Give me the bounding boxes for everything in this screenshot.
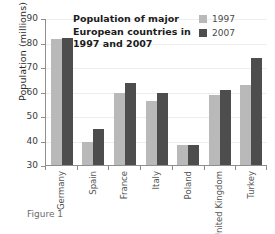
y-tick: 90 <box>0 19 45 20</box>
x-tick-label: Poland <box>183 171 193 199</box>
legend-item: 1997 <box>199 13 235 25</box>
figure-caption: Figure 1 <box>27 209 63 219</box>
x-tick-label: Germany <box>56 171 66 210</box>
y-tick: 60 <box>0 93 45 94</box>
bar-2007-turkey <box>251 58 262 165</box>
bar-2007-united-kingdom <box>220 90 231 165</box>
legend-item: 2007 <box>199 27 235 39</box>
legend-label: 2007 <box>212 28 235 38</box>
x-label-cell: Italy <box>140 171 172 229</box>
y-tick-label: 40 <box>27 136 38 147</box>
x-label-cell: Spain <box>77 171 109 229</box>
x-tick-mark <box>172 166 173 170</box>
y-tick-label: 50 <box>27 111 38 122</box>
y-tick-label: 30 <box>27 160 38 171</box>
y-tick: 70 <box>0 68 45 69</box>
y-tick-label: 60 <box>27 87 38 98</box>
chart-title: Population of major European countries i… <box>73 13 191 51</box>
x-label-cell: Germany <box>45 171 77 229</box>
x-tick-mark <box>235 166 236 170</box>
bar-2007-germany <box>62 38 73 165</box>
x-label-cell: Poland <box>172 171 204 229</box>
x-tick-label: Turkey <box>246 171 256 199</box>
y-tick-label: 80 <box>27 38 38 49</box>
x-tick-label: United Kingdom <box>214 171 224 234</box>
bar-2007-italy <box>157 93 168 165</box>
y-tick-label: 70 <box>27 62 38 73</box>
x-tick-mark <box>140 166 141 170</box>
legend-swatch <box>199 29 207 37</box>
y-tick: 50 <box>0 117 45 118</box>
x-tick-mark <box>108 166 109 170</box>
y-axis-ticks: 90807060504030 <box>0 19 45 166</box>
x-axis-labels: GermanySpainFranceItalyPolandUnited King… <box>45 171 267 229</box>
bar-2007-spain <box>93 129 104 165</box>
bar-2007-poland <box>188 145 199 165</box>
legend-swatch <box>199 15 207 23</box>
x-label-cell: France <box>108 171 140 229</box>
bar-1997-spain <box>82 142 93 165</box>
y-tick-label: 90 <box>27 13 38 24</box>
x-tick-label: Italy <box>151 171 161 189</box>
legend: 19972007 <box>199 13 235 41</box>
bar-group <box>235 19 267 165</box>
bar-1997-turkey <box>240 85 251 165</box>
x-tick-mark <box>204 166 205 170</box>
x-tick-mark <box>266 166 267 170</box>
x-tick-label: Spain <box>88 171 98 195</box>
y-tick: 30 <box>0 166 45 167</box>
bar-1997-france <box>114 93 125 165</box>
x-label-cell: Turkey <box>235 171 267 229</box>
x-label-cell: United Kingdom <box>204 171 236 229</box>
bar-1997-poland <box>177 145 188 165</box>
bar-1997-italy <box>146 101 157 165</box>
x-tick-mark <box>45 166 46 170</box>
figure-container: Population (millions) 90807060504030 Ger… <box>0 0 275 234</box>
y-tick: 80 <box>0 44 45 45</box>
y-tick: 40 <box>0 142 45 143</box>
legend-label: 1997 <box>212 14 235 24</box>
bar-2007-france <box>125 83 136 165</box>
x-tick-mark <box>77 166 78 170</box>
bar-1997-germany <box>51 39 62 165</box>
bar-1997-united-kingdom <box>209 95 220 165</box>
x-tick-label: France <box>119 171 129 199</box>
